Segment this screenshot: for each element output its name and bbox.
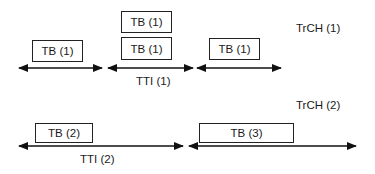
trch1-label: TrCH (1)	[296, 22, 340, 34]
transport-block-tb1-b-bottom: TB (1)	[121, 37, 172, 60]
transport-block-tb1-a: TB (1)	[32, 40, 83, 62]
block-label: TB (1)	[131, 43, 163, 55]
tti2-label: TTI (2)	[80, 153, 115, 165]
transport-block-tb2: TB (2)	[35, 123, 93, 143]
tti1-label: TTI (1)	[136, 75, 171, 87]
block-label: TB (1)	[42, 45, 74, 57]
block-label: TB (3)	[231, 127, 263, 139]
block-label: TB (1)	[131, 16, 163, 28]
block-label: TB (2)	[48, 127, 80, 139]
block-label: TB (1)	[219, 43, 251, 55]
trch2-label: TrCH (2)	[296, 99, 340, 111]
transport-block-tb1-b-top: TB (1)	[121, 11, 172, 33]
transport-block-tb3: TB (3)	[199, 123, 294, 143]
transport-block-tb1-c: TB (1)	[209, 38, 260, 60]
